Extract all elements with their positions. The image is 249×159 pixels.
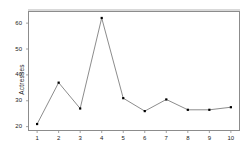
chart-figure: Actresses 2030405060 12345678910 xyxy=(0,0,249,159)
data-point-marker xyxy=(187,109,189,111)
data-point-marker xyxy=(58,82,60,84)
x-axis-tick-marks xyxy=(37,131,231,134)
x-tick-label: 5 xyxy=(116,135,130,142)
y-tick-label: 30 xyxy=(0,97,22,104)
x-tick-label: 8 xyxy=(181,135,195,142)
x-tick-label: 9 xyxy=(202,135,216,142)
y-tick-label: 20 xyxy=(0,123,22,130)
data-point-marker xyxy=(101,17,103,19)
y-tick-label: 40 xyxy=(0,71,22,78)
data-point-marker xyxy=(165,98,167,100)
x-tick-label: 6 xyxy=(138,135,152,142)
x-tick-label: 2 xyxy=(52,135,66,142)
data-line-actresses xyxy=(37,18,231,124)
x-tick-label: 3 xyxy=(73,135,87,142)
data-point-marker xyxy=(36,123,38,125)
data-point-marker xyxy=(144,110,146,112)
x-tick-label: 10 xyxy=(224,135,238,142)
x-tick-label: 1 xyxy=(30,135,44,142)
x-tick-label: 7 xyxy=(159,135,173,142)
y-axis-tick-marks xyxy=(26,23,29,126)
data-point-marker xyxy=(208,109,210,111)
x-tick-label: 4 xyxy=(95,135,109,142)
y-tick-label: 60 xyxy=(0,20,22,27)
data-point-markers xyxy=(36,17,232,125)
data-point-marker xyxy=(122,97,124,99)
data-point-marker xyxy=(79,107,81,109)
y-tick-label: 50 xyxy=(0,46,22,53)
data-point-marker xyxy=(230,106,232,108)
